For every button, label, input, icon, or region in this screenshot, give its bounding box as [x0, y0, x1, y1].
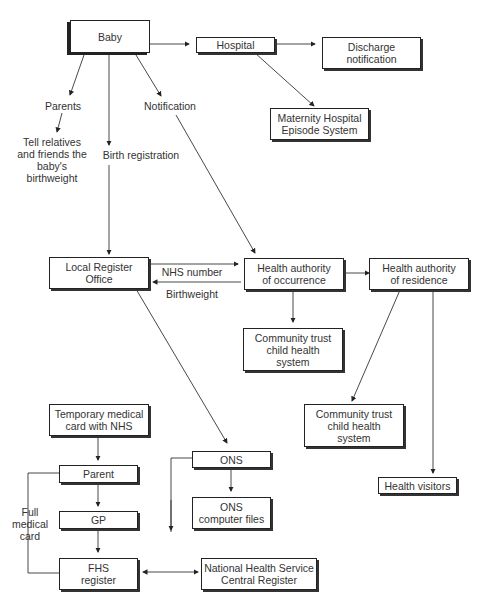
node-baby: Baby	[70, 20, 150, 53]
node-local-register-office: Local Register Office	[49, 257, 149, 289]
label-birth-registration: Birth registration	[100, 149, 182, 161]
label-notification: Notification	[140, 100, 200, 112]
label-tell-relatives: Tell relatives and friends the baby's bi…	[12, 136, 92, 184]
label-birthweight: Birthweight	[162, 288, 222, 300]
node-parent: Parent	[59, 465, 138, 483]
node-fhs-register: FHS register	[59, 558, 138, 590]
node-gp: GP	[59, 511, 138, 529]
node-ons: ONS	[192, 451, 271, 468]
node-community-trust-occurrence: Community trust child health system	[243, 328, 343, 371]
node-ons-computer-files: ONS computer files	[192, 497, 271, 529]
node-nhs-central-register: National Health Service Central Register	[201, 558, 317, 590]
node-community-trust-residence: Community trust child health system	[304, 404, 404, 447]
node-health-authority-occurrence: Health authority of occurrence	[244, 258, 344, 290]
node-discharge-notification: Discharge notification	[322, 37, 421, 69]
label-full-medical-card: Full medical card	[8, 506, 52, 542]
node-health-authority-residence: Health authority of residence	[369, 258, 469, 290]
label-parents: Parents	[40, 100, 86, 112]
label-nhs-number: NHS number	[160, 266, 224, 278]
node-temporary-medical-card: Temporary medical card with NHS	[49, 404, 149, 436]
node-hospital: Hospital	[196, 37, 275, 53]
node-maternity-hospital-episode-system: Maternity Hospital Episode System	[270, 108, 369, 140]
node-health-visitors: Health visitors	[378, 477, 457, 494]
